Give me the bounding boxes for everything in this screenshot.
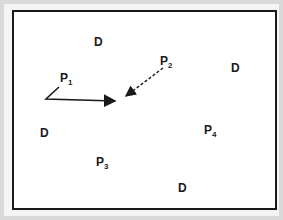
arrows-layer (0, 0, 283, 220)
arrow-dashed (126, 68, 163, 96)
arrow-solid (46, 87, 115, 101)
